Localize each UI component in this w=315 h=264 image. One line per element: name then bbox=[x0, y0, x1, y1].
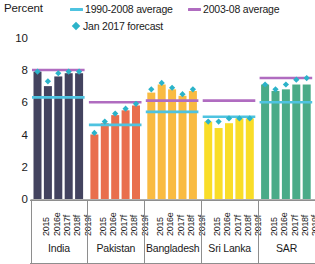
x-axis-group-labels: IndiaPakistanBangladeshSri LankaSAR bbox=[0, 239, 315, 264]
x-axis-year-label: 2016e bbox=[279, 212, 289, 236]
x-axis-year-label: 2018f bbox=[186, 215, 196, 236]
bar bbox=[65, 73, 73, 199]
bar bbox=[282, 89, 290, 199]
x-axis-year-label: 2016e bbox=[222, 212, 232, 236]
x-axis-year-label: 2018f bbox=[300, 215, 310, 236]
x-axis-group-label-bangladesh: Bangladesh bbox=[144, 242, 201, 254]
bar bbox=[246, 118, 254, 199]
forecast-diamond-marker bbox=[216, 119, 222, 125]
bar bbox=[204, 122, 212, 199]
bar bbox=[75, 73, 83, 199]
bar bbox=[54, 76, 62, 199]
bar bbox=[235, 118, 243, 199]
bar-group-bangladesh bbox=[146, 80, 199, 199]
group-separator bbox=[31, 200, 32, 264]
x-axis-year-label: 2016e bbox=[52, 212, 62, 236]
x-axis-year-label: 2016e bbox=[108, 212, 118, 236]
x-axis-year-label: 2017f bbox=[176, 215, 186, 236]
bar bbox=[147, 93, 155, 199]
bar bbox=[44, 86, 52, 199]
x-axis-group-label-sar: SAR bbox=[258, 242, 315, 254]
x-axis-year-label: 2015 bbox=[212, 217, 222, 236]
bar bbox=[34, 72, 42, 199]
x-axis-year-label: 2015 bbox=[155, 217, 165, 236]
x-axis-year-label: 2017f bbox=[62, 215, 72, 236]
x-axis-year-label: 2019f bbox=[310, 215, 315, 236]
x-axis-year-label: 2017f bbox=[233, 215, 243, 236]
bar bbox=[189, 91, 197, 199]
x-axis-year-label: 2018f bbox=[129, 215, 139, 236]
bar bbox=[90, 135, 98, 200]
x-axis-group-label-india: India bbox=[31, 242, 88, 254]
x-axis-year-label: 2016e bbox=[165, 212, 175, 236]
x-axis-year-label: 2015 bbox=[98, 217, 108, 236]
bar bbox=[272, 91, 280, 199]
bar bbox=[225, 123, 233, 199]
bar bbox=[215, 128, 223, 199]
bar bbox=[168, 89, 176, 199]
x-axis-year-labels: 20152016e2017f2018f2019f20152016e2017f20… bbox=[0, 200, 315, 238]
bar bbox=[132, 105, 140, 199]
x-axis-year-label: 2018f bbox=[243, 215, 253, 236]
forecast-diamond-marker bbox=[45, 78, 51, 84]
group-separator bbox=[144, 200, 145, 264]
forecast-diamond-marker bbox=[148, 86, 154, 92]
group-separator bbox=[258, 200, 259, 264]
bar bbox=[111, 115, 119, 199]
bar-group-sri-lanka bbox=[203, 101, 256, 199]
x-axis-table-top-border bbox=[30, 200, 315, 201]
x-axis-year-label: 2018f bbox=[72, 215, 82, 236]
x-axis-group-label-sri-lanka: Sri Lanka bbox=[201, 242, 258, 254]
forecast-diamond-marker bbox=[304, 75, 310, 81]
bar bbox=[101, 123, 109, 199]
x-axis-year-label: 2017f bbox=[290, 215, 300, 236]
chart-root: Percent 1990-2008 average 2003-08 averag… bbox=[0, 0, 315, 264]
forecast-diamond-marker bbox=[283, 81, 289, 87]
bar-group-pakistan bbox=[89, 101, 142, 199]
group-separator bbox=[87, 200, 88, 264]
x-axis-year-label: 2015 bbox=[41, 217, 51, 236]
group-separator bbox=[201, 200, 202, 264]
x-axis-group-label-pakistan: Pakistan bbox=[87, 242, 144, 254]
x-axis-year-label: 2015 bbox=[269, 217, 279, 236]
bar-group-india bbox=[32, 69, 85, 199]
x-axis-year-label: 2017f bbox=[119, 215, 129, 236]
bar-group-sar bbox=[260, 75, 313, 199]
